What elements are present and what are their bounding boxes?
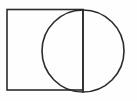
figure-canvas: [0, 0, 137, 101]
rectangle-shape: [7, 10, 83, 91]
geometric-figure-svg: [0, 0, 137, 101]
